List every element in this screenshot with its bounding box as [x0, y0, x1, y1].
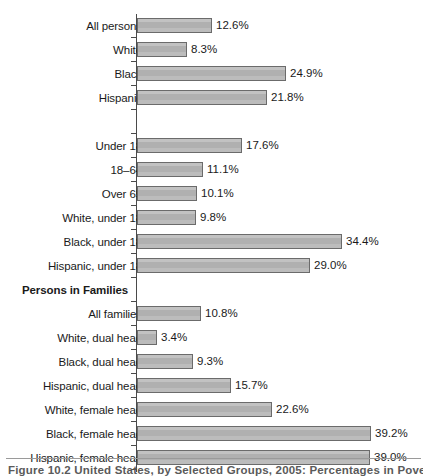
bar — [137, 234, 342, 249]
chart-spacer-row — [0, 110, 427, 134]
chart-bar-row: Black, dual head9.3% — [0, 350, 427, 374]
bar — [137, 330, 157, 345]
category-label: Black, dual head — [59, 350, 142, 374]
bar — [137, 378, 231, 393]
bar-container: 15.7% — [137, 378, 231, 394]
bar — [137, 402, 272, 417]
bar-value-label: 24.9% — [290, 66, 323, 81]
category-label: Over 65 — [102, 182, 142, 206]
bar-value-label: 10.8% — [205, 306, 238, 321]
caption-divider — [6, 458, 421, 459]
chart-bar-row: All families10.8% — [0, 302, 427, 326]
bar-value-label: 21.8% — [271, 90, 304, 105]
figure-caption: Figure 10.2 United States, by Selected G… — [8, 464, 423, 476]
bar-value-label: 39.2% — [375, 426, 408, 441]
category-label: Black, under 18 — [64, 230, 142, 254]
chart-bar-row: All persons12.6% — [0, 14, 427, 38]
bar-container: 3.4% — [137, 330, 157, 346]
bar-container: 34.4% — [137, 234, 342, 250]
bar-container: 11.1% — [137, 162, 203, 178]
chart-bar-row: Black, under 1834.4% — [0, 230, 427, 254]
category-label: White, female head — [45, 398, 142, 422]
bar-container: 17.6% — [137, 138, 242, 154]
chart-bar-row: Hispanic, dual head15.7% — [0, 374, 427, 398]
bar-value-label: 9.3% — [197, 354, 223, 369]
bar — [137, 162, 203, 177]
bar-container: 29.0% — [137, 258, 310, 274]
bar-value-label: 8.3% — [191, 42, 217, 57]
bar-container: 21.8% — [137, 90, 267, 106]
bar-value-label: 29.0% — [314, 258, 347, 273]
bar-value-label: 3.4% — [161, 330, 187, 345]
category-label: Hispanic — [99, 86, 142, 110]
bar-container: 9.8% — [137, 210, 196, 226]
bar-container: 9.3% — [137, 354, 193, 370]
group-header-label: Persons in Families — [22, 278, 128, 302]
bar-container: 10.8% — [137, 306, 201, 322]
bar-value-label: 15.7% — [235, 378, 268, 393]
chart-bar-row: Hispanic21.8% — [0, 86, 427, 110]
chart-bar-row: White, under 189.8% — [0, 206, 427, 230]
bar — [137, 258, 310, 273]
bar-container: 24.9% — [137, 66, 286, 82]
bar — [137, 138, 242, 153]
bar-value-label: 12.6% — [216, 18, 249, 33]
chart-bar-row: White8.3% — [0, 38, 427, 62]
category-label: All persons — [86, 14, 142, 38]
category-label: White, under 18 — [62, 206, 142, 230]
category-label: Black, female head — [46, 422, 142, 446]
category-label: Hispanic, dual head — [43, 374, 142, 398]
chart-bar-row: Black24.9% — [0, 62, 427, 86]
bar-value-label: 17.6% — [246, 138, 279, 153]
bar-container: 8.3% — [137, 42, 187, 58]
bar — [137, 186, 197, 201]
chart-bar-row: Under 1817.6% — [0, 134, 427, 158]
bar-container: 39.2% — [137, 426, 371, 442]
poverty-bar-chart-figure: All persons12.6%White8.3%Black24.9%Hispa… — [0, 0, 427, 476]
bar — [137, 426, 371, 441]
bar-container: 12.6% — [137, 18, 212, 34]
bar — [137, 354, 193, 369]
chart-bar-row: Hispanic, under 1829.0% — [0, 254, 427, 278]
bar-value-label: 34.4% — [346, 234, 379, 249]
bar-value-label: 10.1% — [201, 186, 234, 201]
bar-value-label: 22.6% — [276, 402, 309, 417]
bar — [137, 90, 267, 105]
bar — [137, 66, 286, 81]
bar-value-label: 11.1% — [207, 162, 239, 177]
bar — [137, 306, 201, 321]
bar-container: 22.6% — [137, 402, 272, 418]
category-label: All families — [88, 302, 142, 326]
bar — [137, 18, 212, 33]
category-label: Under 18 — [95, 134, 142, 158]
bar-container: 10.1% — [137, 186, 197, 202]
bar-value-label: 9.8% — [200, 210, 226, 225]
chart-bar-row: 18–6411.1% — [0, 158, 427, 182]
chart-bar-row: Black, female head39.2% — [0, 422, 427, 446]
category-label: Hispanic, under 18 — [48, 254, 142, 278]
chart-group-header-row: Persons in Families — [0, 278, 427, 302]
category-label: White, dual head — [57, 326, 142, 350]
chart-bar-row: White, female head22.6% — [0, 398, 427, 422]
bar — [137, 210, 196, 225]
chart-plot-area: All persons12.6%White8.3%Black24.9%Hispa… — [0, 0, 427, 452]
chart-bar-row: White, dual head3.4% — [0, 326, 427, 350]
chart-bar-row: Over 6510.1% — [0, 182, 427, 206]
bar — [137, 42, 187, 57]
